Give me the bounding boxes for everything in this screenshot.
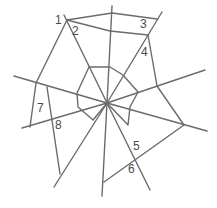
outer-thread bbox=[30, 20, 67, 127]
spoke-line bbox=[107, 103, 207, 131]
label-5: 5 bbox=[133, 140, 140, 152]
label-2: 2 bbox=[72, 25, 79, 37]
label-7: 7 bbox=[37, 102, 44, 114]
label-6: 6 bbox=[128, 163, 135, 175]
spoke-line bbox=[107, 6, 112, 103]
label-8: 8 bbox=[55, 119, 62, 131]
label-1: 1 bbox=[55, 14, 62, 26]
spoke-line bbox=[14, 76, 107, 103]
spoke-line bbox=[107, 12, 162, 103]
label-3: 3 bbox=[140, 18, 147, 30]
spider-web-diagram bbox=[0, 0, 217, 208]
outer-thread bbox=[67, 20, 148, 35]
label-4: 4 bbox=[141, 46, 148, 58]
